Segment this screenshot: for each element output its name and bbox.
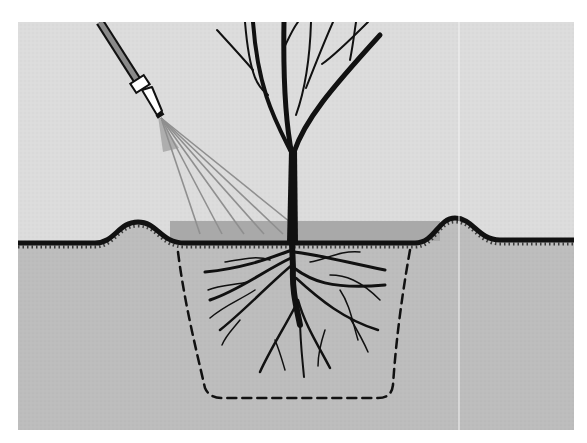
water-basin xyxy=(170,221,440,241)
tree-planting-illustration xyxy=(0,0,587,443)
